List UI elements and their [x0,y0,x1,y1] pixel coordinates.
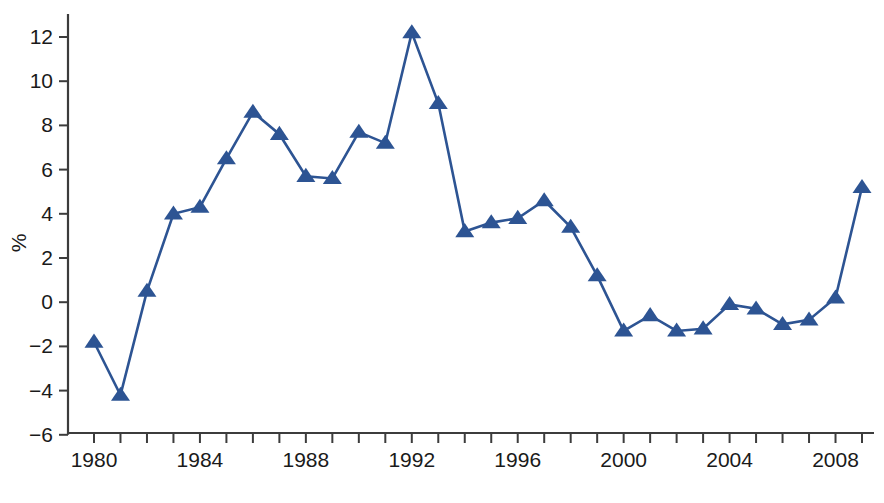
y-axis: −6−4−2024681012 [29,14,68,446]
y-axis-tick-label: 0 [41,290,53,313]
x-axis-tick-label: 1984 [177,448,224,471]
x-axis-tick-label: 1988 [283,448,330,471]
y-axis-tick-label: 2 [41,246,53,269]
data-point-marker [402,24,421,38]
x-axis: 19801984198819921996200020042008 [68,433,874,471]
data-point-marker [429,95,448,109]
x-axis-tick-label: 1996 [494,448,541,471]
data-point-marker [111,387,130,401]
y-axis-tick-label: −6 [29,423,53,446]
data-point-marker [217,150,236,164]
data-point-marker [190,199,209,213]
data-point-marker [641,307,660,321]
line-chart: −6−4−2024681012 198019841988199219962000… [0,0,884,503]
data-point-marker [349,124,368,138]
x-axis-tick-label: 2000 [600,448,647,471]
x-axis-tick-label: 2008 [812,448,859,471]
y-axis-tick-label: 10 [30,69,53,92]
data-point-marker [614,323,633,337]
data-series [85,24,872,400]
y-axis-tick-label: 12 [30,25,53,48]
data-point-marker [826,289,845,303]
data-point-marker [720,296,739,310]
data-point-marker [376,135,395,149]
data-point-marker [535,192,554,206]
y-axis-tick-label: −4 [29,379,53,402]
chart-container: −6−4−2024681012 198019841988199219962000… [0,0,884,503]
x-axis-tick-label: 2004 [706,448,753,471]
data-point-marker [588,267,607,281]
data-point-marker [85,334,104,348]
data-point-marker [296,168,315,182]
y-axis-title: % [7,234,30,253]
series-line [94,33,862,395]
data-point-marker [137,283,156,297]
y-axis-tick-label: −2 [29,334,53,357]
data-point-marker [243,104,262,118]
y-axis-tick-label: 6 [41,158,53,181]
y-axis-tick-label: 4 [41,202,53,225]
data-point-marker [853,179,872,193]
data-point-marker [508,210,527,224]
x-axis-tick-label: 1980 [71,448,118,471]
x-axis-tick-label: 1992 [388,448,435,471]
y-axis-tick-label: 8 [41,113,53,136]
